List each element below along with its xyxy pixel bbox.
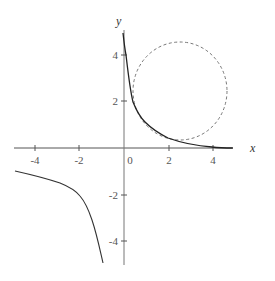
x-axis-label: x xyxy=(249,141,256,155)
curve-right-branch xyxy=(123,33,233,148)
y-tick-label: -4 xyxy=(109,235,119,247)
dashed-circle xyxy=(133,42,227,140)
origin-label: 0 xyxy=(127,154,133,166)
x-tick-label: 4 xyxy=(210,154,216,166)
y-tick-label: 4 xyxy=(113,49,119,61)
y-tick-label: 2 xyxy=(113,95,119,107)
x-tick-label: -4 xyxy=(30,154,40,166)
chart: -4 -2 0 2 4 4 2 -2 -4 x y xyxy=(0,0,275,281)
curve-left-branch xyxy=(15,171,103,263)
y-tick-label: -2 xyxy=(109,189,118,201)
y-axis-label: y xyxy=(115,14,122,28)
x-tick-label: -2 xyxy=(74,154,83,166)
x-tick-label: 2 xyxy=(166,154,172,166)
